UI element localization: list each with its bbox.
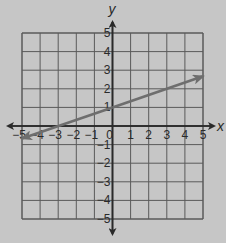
x-tick-label: −2 xyxy=(66,128,80,142)
data-line xyxy=(113,76,204,107)
x-tick-label: 5 xyxy=(200,128,207,142)
tick-labels: xy−5−4−3−2−1012345−5−4−3−2−112345 xyxy=(12,1,225,226)
x-tick-label: 1 xyxy=(127,128,134,142)
x-axis-label: x xyxy=(216,118,225,134)
y-tick-label: 2 xyxy=(104,82,111,96)
x-tick-label: 2 xyxy=(145,128,152,142)
y-tick-label: 4 xyxy=(104,45,111,59)
x-tick-label: −5 xyxy=(12,128,26,142)
y-tick-label: 3 xyxy=(104,63,111,77)
y-axis-label: y xyxy=(108,1,117,17)
x-tick-label: 4 xyxy=(182,128,189,142)
y-tick-label: 5 xyxy=(104,26,111,40)
coordinate-plane: xy−5−4−3−2−1012345−5−4−3−2−112345 xyxy=(0,0,226,243)
x-tick-label: 3 xyxy=(163,128,170,142)
y-tick-label: −2 xyxy=(97,156,111,170)
y-tick-label: −1 xyxy=(97,138,111,152)
y-tick-label: −4 xyxy=(97,193,111,207)
y-tick-label: −3 xyxy=(97,175,111,189)
y-tick-label: −5 xyxy=(97,212,111,226)
x-tick-label: −3 xyxy=(48,128,62,142)
